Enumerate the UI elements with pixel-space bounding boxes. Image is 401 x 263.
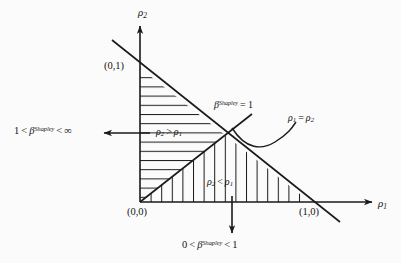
shapley-region-diagram: ρ2 ρ1 (0,1) (0,0) (1,0) ρ2>ρ1 ρ2<ρ1 βSha…: [0, 0, 401, 263]
region-label-rho2-greater: ρ2>ρ1: [156, 127, 182, 138]
y-axis-label: ρ2: [138, 7, 147, 19]
x-axis-label: ρ1: [378, 198, 387, 210]
point-label-1-0: (1,0): [299, 207, 319, 218]
annotation-beta-greater-than-one: 1<βShapley<∞: [14, 126, 72, 137]
annotation-rho1-equals-rho2: ρ1=ρ2: [288, 113, 314, 124]
region-label-rho2-less: ρ2<ρ1: [207, 177, 233, 188]
point-label-origin: (0,0): [127, 207, 147, 218]
annotation-beta-less-than-one: 0<βShapley<1: [182, 240, 238, 251]
point-label-0-1: (0,1): [104, 61, 124, 72]
annotation-beta-equals-one: βShapley= 1: [214, 100, 255, 110]
